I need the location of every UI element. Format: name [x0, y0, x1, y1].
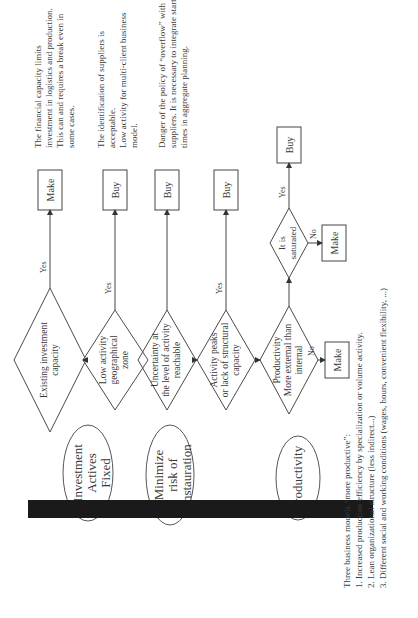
decision-diamond-saturated: It is saturated — [270, 208, 308, 278]
svg-text:Danger of the policy of “overf: Danger of the policy of “overflow” with — [157, 3, 167, 148]
svg-text:This can and requires a break: This can and requires a break even in — [55, 13, 65, 148]
note-overflow: Danger of the policy of “overflow” with … — [157, 0, 189, 148]
svg-text:Buy: Buy — [221, 182, 232, 199]
outcome-box-make-1: Make — [38, 170, 62, 210]
svg-text:Buy: Buy — [110, 182, 121, 199]
svg-text:It is: It is — [277, 236, 287, 250]
svg-text:investment in logistics and pr: investment in logistics and production. — [44, 8, 54, 148]
svg-text:Uncertainty at: Uncertainty at — [150, 333, 160, 387]
outcome-box-make-2: Make — [325, 342, 349, 378]
svg-text:3. Different social and workin: 3. Different social and working conditio… — [378, 288, 388, 588]
decision-diamond-uncertainty: Uncertainty at the level of activity rea… — [138, 310, 196, 410]
outcome-box-buy-1: Buy — [103, 170, 127, 210]
outcome-box-buy-2: Buy — [155, 170, 179, 210]
svg-text:Low activity: Low activity — [98, 336, 108, 385]
svg-text:Yes: Yes — [215, 282, 224, 294]
svg-text:The identification of supplier: The identification of suppliers is — [96, 31, 106, 148]
svg-text:suppliers. It is necessary to: suppliers. It is necessary to integrate … — [168, 0, 178, 148]
objective-text: Investment — [70, 444, 85, 502]
svg-text:More external than: More external than — [283, 324, 293, 397]
flowchart: Investment Actives Fixed Minimize risk o… — [0, 0, 418, 618]
svg-text:Fixed: Fixed — [98, 458, 113, 488]
svg-text:instauration: instauration — [179, 444, 194, 506]
svg-text:saturated: saturated — [288, 226, 298, 259]
note-investment: The financial capacity limits investment… — [33, 8, 76, 148]
svg-text:Make: Make — [45, 178, 56, 201]
svg-text:Make: Make — [332, 348, 343, 371]
svg-text:2. Lean organizational structu: 2. Lean organizational structure (less i… — [366, 415, 376, 588]
decision-diamond-activity-peaks: Activity peaks or lack of structural cap… — [197, 310, 255, 410]
svg-text:acceptable.: acceptable. — [107, 108, 117, 148]
footnote: Three business models “more productive”:… — [342, 288, 388, 588]
svg-text:Existing investment: Existing investment — [39, 322, 49, 398]
svg-text:reachable: reachable — [172, 342, 182, 378]
svg-text:Buy: Buy — [284, 137, 295, 154]
big-arrow-icon — [28, 500, 373, 518]
decision-diamond-investment: Existing investment capacity — [14, 288, 86, 432]
svg-text:Yes: Yes — [39, 261, 48, 273]
svg-text:the level of activity: the level of activity — [161, 323, 171, 397]
svg-text:Yes: Yes — [104, 282, 113, 294]
svg-text:model.: model. — [129, 123, 139, 148]
svg-text:geographical: geographical — [109, 335, 119, 384]
svg-text:Low activity for multi-client: Low activity for multi-client business — [118, 12, 128, 148]
svg-text:Three business models “more pr: Three business models “more productive”: — [342, 434, 352, 588]
svg-text:Activity peaks: Activity peaks — [209, 332, 219, 387]
decision-diamond-productivity: Productivity More external than internal — [260, 306, 318, 414]
outcome-box-buy-3: Buy — [214, 170, 238, 210]
svg-text:Productivity: Productivity — [272, 336, 282, 383]
svg-text:times in aggregate planning.: times in aggregate planning. — [179, 46, 189, 148]
svg-text:No: No — [307, 346, 316, 356]
diagram-canvas: Investment Actives Fixed Minimize risk o… — [0, 0, 418, 618]
svg-text:or lack of structural: or lack of structural — [220, 322, 230, 397]
svg-text:1. Increased production effici: 1. Increased production efficiency by sp… — [354, 332, 364, 588]
outcome-box-make-saturated: Make — [322, 225, 346, 261]
note-suppliers: The identification of suppliers is accep… — [96, 12, 139, 148]
svg-text:some cases.: some cases. — [66, 106, 76, 149]
svg-text:No: No — [309, 229, 318, 239]
svg-text:zone: zone — [120, 351, 130, 369]
svg-text:Buy: Buy — [162, 182, 173, 199]
svg-text:Yes: Yes — [278, 186, 287, 198]
svg-text:Make: Make — [329, 231, 340, 254]
outcome-box-buy-saturated: Buy — [277, 127, 301, 163]
svg-text:internal: internal — [294, 345, 304, 374]
svg-text:Actives: Actives — [84, 453, 99, 493]
svg-text:The financial capacity limits: The financial capacity limits — [33, 45, 43, 148]
svg-text:capacity: capacity — [50, 344, 60, 376]
svg-text:risk of: risk of — [165, 458, 180, 492]
svg-text:capacity: capacity — [231, 344, 241, 376]
svg-text:Minimize: Minimize — [151, 449, 166, 500]
